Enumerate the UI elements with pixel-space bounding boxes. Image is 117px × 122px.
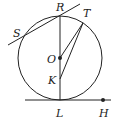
point-o-dot xyxy=(58,56,62,60)
label-o: O xyxy=(47,53,56,66)
label-t: T xyxy=(83,7,92,20)
segment-ot xyxy=(60,23,83,58)
segment-kt xyxy=(60,23,83,79)
label-l: L xyxy=(55,107,63,120)
label-r: R xyxy=(55,1,64,14)
label-h: H xyxy=(98,107,109,120)
label-s: S xyxy=(13,27,21,40)
point-labels: RTSOKLH xyxy=(13,1,109,120)
label-k: K xyxy=(47,74,57,87)
diagram-svg: RTSOKLH xyxy=(0,0,117,122)
point-h-dot xyxy=(101,98,105,102)
geometry-diagram: RTSOKLH xyxy=(0,0,117,122)
